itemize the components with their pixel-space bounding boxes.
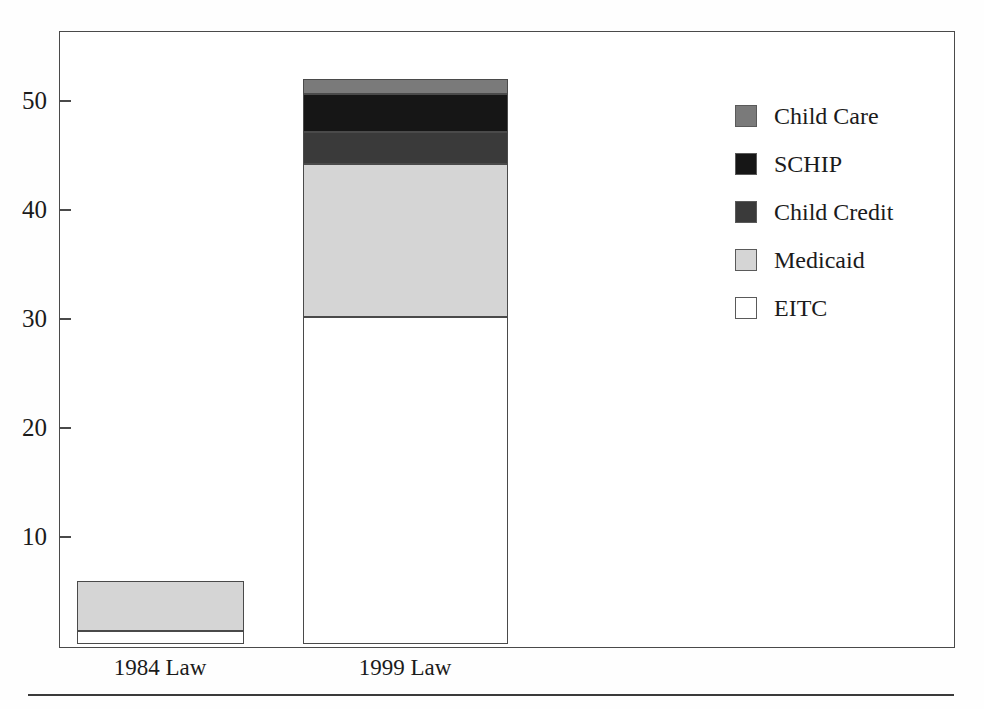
legend: Child CareSCHIPChild CreditMedicaidEITC [735,92,893,332]
bar-segment-child-care[interactable] [303,79,508,93]
bar-segment-schip[interactable] [303,94,508,132]
y-axis-tick-mark [60,100,71,102]
bar-segment-eitc[interactable] [77,631,244,644]
x-axis-label: 1984 Law [60,655,260,681]
legend-item-label: EITC [774,294,827,322]
y-axis-tick-label: 30 [22,303,47,334]
legend-item-child-care[interactable]: Child Care [735,92,893,140]
y-axis-tick-label: 20 [22,412,47,443]
x-axis-label: 1999 Law [305,655,505,681]
legend-item-schip[interactable]: SCHIP [735,140,893,188]
legend-item-label: SCHIP [774,150,842,178]
legend-item-label: Child Credit [774,198,893,226]
legend-item-label: Medicaid [774,246,865,274]
legend-item-label: Child Care [774,102,879,130]
bar-segment-child-credit[interactable] [303,132,508,165]
bar-segment-medicaid[interactable] [77,581,244,631]
legend-swatch-icon [735,297,757,319]
y-axis-tick-mark [60,427,71,429]
y-axis-tick-label: 40 [22,194,47,225]
y-axis-tick-label: 10 [22,521,47,552]
legend-item-eitc[interactable]: EITC [735,284,893,332]
bar-stack[interactable] [77,30,244,647]
legend-swatch-icon [735,153,757,175]
legend-item-medicaid[interactable]: Medicaid [735,236,893,284]
legend-item-child-credit[interactable]: Child Credit [735,188,893,236]
y-axis-tick-mark [60,209,71,211]
legend-swatch-icon [735,249,757,271]
bar-segment-medicaid[interactable] [303,164,508,317]
legend-swatch-icon [735,201,757,223]
bottom-rule-divider [28,694,954,696]
chart-page: 5040302010 1984 Law1999 Law Child CareSC… [0,0,984,709]
bar-stack[interactable] [303,30,508,647]
legend-swatch-icon [735,105,757,127]
bar-segment-eitc[interactable] [303,317,508,644]
y-axis-tick-label: 50 [22,85,47,116]
y-axis-tick-mark [60,318,71,320]
y-axis-tick-mark [60,536,71,538]
